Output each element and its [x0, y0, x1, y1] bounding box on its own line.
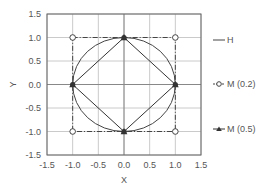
- y-tick-label: 1.5: [28, 9, 41, 19]
- y-tick-label: -0.5: [25, 103, 41, 113]
- y-tick-labels: -1.5-1.0-0.50.00.51.01.5: [25, 9, 41, 160]
- y-tick-label: -1.5: [25, 150, 41, 160]
- x-tick-label: 1.0: [169, 160, 182, 170]
- legend-label: H: [227, 35, 234, 45]
- x-tick-label: -1.0: [65, 160, 81, 170]
- y-tick-label: 0.0: [28, 80, 41, 90]
- x-tick-label: -0.5: [91, 160, 107, 170]
- legend-open-circle-icon: [217, 82, 222, 87]
- filled-point-marker: [121, 129, 126, 134]
- x-axis-label: X: [121, 175, 127, 185]
- x-tick-label: 0.0: [118, 160, 131, 170]
- legend-label: M (0.5): [227, 124, 256, 134]
- open-circle-marker: [70, 129, 76, 135]
- y-tick-label: 0.5: [28, 56, 41, 66]
- chart: -1.5-1.0-0.50.00.51.01.5 -1.5-1.0-0.50.0…: [0, 0, 267, 192]
- x-tick-label: 1.5: [195, 160, 208, 170]
- x-tick-label: 0.5: [143, 160, 156, 170]
- y-tick-label: 1.0: [28, 33, 41, 43]
- x-tick-label: -1.5: [39, 160, 55, 170]
- filled-point-marker: [173, 82, 178, 87]
- open-circle-marker: [173, 35, 179, 41]
- open-circle-marker: [70, 35, 76, 41]
- filled-point-marker: [121, 35, 126, 40]
- x-tick-labels: -1.5-1.0-0.50.00.51.01.5: [39, 160, 207, 170]
- y-axis-label: Y: [8, 81, 18, 87]
- legend-label: M (0.2): [227, 79, 256, 89]
- filled-point-marker: [70, 82, 75, 87]
- open-circle-marker: [173, 129, 179, 135]
- legend: HM (0.2)M (0.5): [213, 35, 256, 134]
- y-tick-label: -1.0: [25, 127, 41, 137]
